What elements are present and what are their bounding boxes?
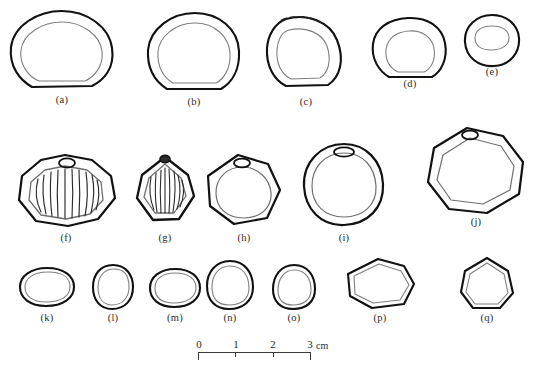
ribbing-f bbox=[36, 169, 98, 218]
specimen-label-g: (g) bbox=[131, 232, 199, 243]
specimen-label-c: (c) bbox=[262, 96, 350, 107]
outer-wall-e bbox=[465, 15, 519, 66]
specimen-label-b: (b) bbox=[143, 96, 245, 107]
specimen-label-q: (q) bbox=[456, 312, 518, 323]
inner-wall-p bbox=[354, 264, 409, 303]
inner-wall-o bbox=[278, 270, 311, 305]
outer-wall-o bbox=[273, 265, 315, 309]
scale-bar-tick-labels: 0 1 2 3 cm bbox=[198, 338, 348, 352]
outer-wall-f bbox=[19, 155, 115, 226]
specimen-drawing-j bbox=[421, 124, 531, 220]
specimen-label-h: (h) bbox=[202, 232, 286, 243]
inner-wall-m bbox=[155, 273, 196, 303]
outer-wall-q bbox=[461, 258, 513, 308]
specimen-drawing-i bbox=[300, 140, 388, 230]
specimen-drawing-f bbox=[12, 148, 120, 232]
inner-wall-b bbox=[158, 23, 230, 83]
specimen-drawing-b bbox=[143, 10, 245, 94]
inner-wall-d bbox=[386, 31, 435, 72]
scale-tick-label-3: 3 bbox=[307, 338, 313, 350]
scale-baseline bbox=[198, 352, 311, 353]
specimen-drawing-h bbox=[202, 150, 286, 230]
scale-unit-label: cm bbox=[316, 340, 328, 351]
outer-wall-b bbox=[148, 13, 239, 89]
inner-wall-j bbox=[437, 138, 514, 204]
outer-wall-k bbox=[20, 268, 74, 306]
outer-wall-c bbox=[267, 17, 341, 86]
specimen-label-o: (o) bbox=[269, 312, 319, 323]
specimen-drawing-k bbox=[16, 265, 78, 309]
inner-wall-l bbox=[98, 269, 129, 305]
inner-wall-c bbox=[277, 29, 329, 79]
inner-wall-k bbox=[25, 272, 70, 302]
outer-wall-m bbox=[150, 269, 200, 307]
scale-tick-3 bbox=[310, 352, 311, 360]
outer-wall-h bbox=[208, 155, 280, 224]
specimen-label-p: (p) bbox=[342, 312, 418, 323]
specimen-label-m: (m) bbox=[146, 312, 204, 323]
specimen-label-l: (l) bbox=[89, 312, 137, 323]
outer-wall-d bbox=[373, 18, 446, 77]
inner-wall-n bbox=[212, 266, 249, 305]
specimen-label-n: (n) bbox=[203, 312, 257, 323]
inner-wall-h bbox=[216, 167, 271, 218]
specimen-label-k: (k) bbox=[16, 312, 78, 323]
specimen-label-d: (d) bbox=[368, 78, 452, 89]
specimen-label-a: (a) bbox=[6, 94, 118, 105]
specimen-label-j: (j) bbox=[421, 216, 531, 227]
scale-tick-label-2: 2 bbox=[270, 338, 276, 350]
scale-bar-rule bbox=[198, 352, 348, 361]
specimen-label-i: (i) bbox=[300, 232, 388, 243]
inner-wall-i bbox=[312, 153, 376, 217]
inner-wall-q bbox=[466, 263, 508, 304]
specimen-drawing-p bbox=[342, 256, 418, 312]
knob-lug-i bbox=[334, 147, 354, 156]
specimen-drawing-o bbox=[269, 262, 319, 312]
scale-tick-0 bbox=[198, 352, 199, 360]
scale-tick-label-0: 0 bbox=[196, 338, 202, 350]
figure-plate: (a) (b) (c) (d) (e) bbox=[0, 0, 537, 373]
knob-lug-h bbox=[234, 159, 250, 168]
specimen-drawing-g bbox=[131, 152, 199, 230]
specimen-drawing-m bbox=[146, 266, 204, 310]
specimen-drawing-l bbox=[89, 262, 137, 312]
scale-tick-2 bbox=[273, 352, 274, 357]
specimen-drawing-c bbox=[262, 14, 350, 92]
specimen-drawing-q bbox=[456, 255, 518, 313]
specimen-label-e: (e) bbox=[461, 66, 523, 77]
knob-lug-g bbox=[160, 155, 170, 162]
scale-bar: 0 1 2 3 cm bbox=[198, 338, 348, 361]
specimen-drawing-n bbox=[203, 258, 257, 312]
inner-wall-e bbox=[475, 26, 509, 50]
scale-tick-label-1: 1 bbox=[233, 338, 239, 350]
outer-wall-n bbox=[207, 261, 253, 309]
scale-tick-1 bbox=[235, 352, 236, 357]
specimen-drawing-d bbox=[368, 15, 452, 83]
specimen-label-f: (f) bbox=[12, 232, 120, 243]
outer-wall-j bbox=[428, 128, 523, 213]
outer-wall-l bbox=[93, 265, 133, 309]
specimen-drawing-a bbox=[6, 8, 118, 94]
outer-wall-p bbox=[348, 259, 414, 308]
specimen-drawing-e bbox=[461, 12, 523, 70]
inner-wall-a bbox=[21, 22, 103, 81]
